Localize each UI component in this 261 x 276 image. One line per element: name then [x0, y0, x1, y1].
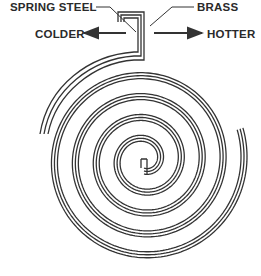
bimetallic-strip-spiral [51, 73, 247, 258]
colder-label: COLDER [35, 28, 85, 40]
spiral-strip-line [57, 79, 241, 252]
brass-leader-diagonal [150, 7, 172, 26]
brass-label: BRASS [197, 1, 238, 13]
spring-steel-label: SPRING STEEL [10, 1, 97, 13]
spiral-drawing [0, 0, 261, 276]
hotter-label: HOTTER [207, 28, 255, 40]
spring-steel-leader-diagonal [110, 7, 136, 32]
bimetallic-spiral-diagram: SPRING STEEL BRASS COLDER HOTTER [0, 0, 261, 276]
